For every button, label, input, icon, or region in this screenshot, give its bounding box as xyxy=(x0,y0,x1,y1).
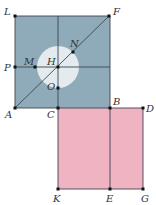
label-c: C xyxy=(47,109,55,120)
label-m: M xyxy=(23,56,35,67)
label-k: K xyxy=(52,193,61,204)
point-o xyxy=(57,87,60,90)
point-p xyxy=(14,66,17,69)
label-b: B xyxy=(112,96,120,107)
label-f: F xyxy=(112,6,121,17)
label-o: O xyxy=(47,81,55,92)
label-p: P xyxy=(3,62,11,73)
point-n xyxy=(72,51,75,54)
point-k xyxy=(57,188,60,191)
label-e: E xyxy=(105,193,114,204)
point-f xyxy=(108,15,111,18)
label-d: D xyxy=(145,103,154,114)
point-h xyxy=(57,66,60,69)
label-g: G xyxy=(141,193,149,204)
label-n: N xyxy=(69,38,80,49)
point-d xyxy=(142,107,145,110)
point-e xyxy=(109,188,112,191)
point-c xyxy=(57,107,60,110)
label-l: L xyxy=(3,6,11,17)
geometry-diagram: LFPMHNOACBDKEG xyxy=(0,0,156,205)
pink-rectangle xyxy=(58,108,143,189)
point-a xyxy=(14,107,17,110)
point-l xyxy=(14,15,17,18)
point-g xyxy=(142,188,145,191)
label-a: A xyxy=(4,109,12,120)
point-b xyxy=(109,107,112,110)
label-h: H xyxy=(46,56,56,67)
